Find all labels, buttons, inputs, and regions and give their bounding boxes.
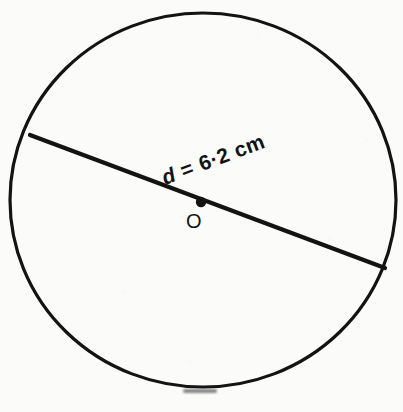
- centre-point-label: O: [186, 210, 202, 232]
- diameter-label: d = 6·2 cm: [158, 129, 268, 188]
- diagram-canvas: d = 6·2 cm O: [0, 0, 403, 412]
- diameter-label-value: 6·2 cm: [195, 129, 268, 175]
- circle-diagram-figure: d = 6·2 cm O: [0, 0, 403, 412]
- centre-dot-icon: [196, 197, 206, 207]
